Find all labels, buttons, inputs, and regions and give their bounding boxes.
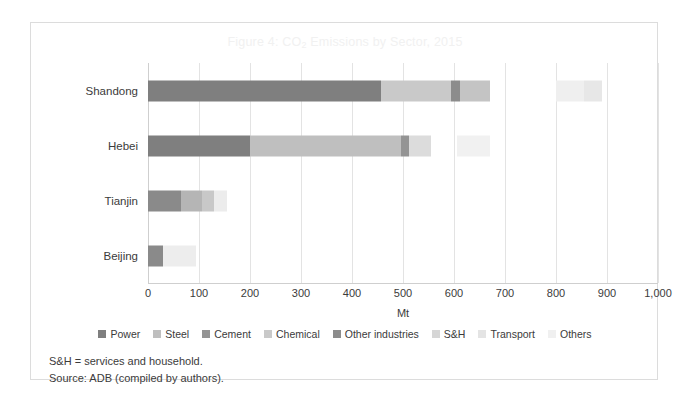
bar-row: Tianjin bbox=[148, 173, 658, 228]
legend-item-cement[interactable]: Cement bbox=[202, 328, 251, 340]
category-label-beijing: Beijing bbox=[103, 250, 138, 262]
bar-segment-transport bbox=[457, 135, 490, 156]
chart-legend: PowerSteelCementChemicalOther industries… bbox=[31, 328, 659, 340]
x-tick-label-100: 100 bbox=[190, 287, 208, 299]
bar-segment-power bbox=[148, 190, 181, 211]
stacked-bar-tianjin bbox=[148, 190, 658, 211]
stacked-bar-beijing bbox=[148, 245, 658, 266]
bar-segment-power bbox=[148, 80, 381, 101]
bar-segment-chemical bbox=[381, 80, 451, 101]
legend-item-other-industries[interactable]: Other industries bbox=[333, 328, 419, 340]
legend-label: Cement bbox=[214, 328, 251, 340]
plot-area: ShandongHebeiTianjinBeijing bbox=[148, 63, 658, 283]
bar-segment-power bbox=[148, 245, 163, 266]
x-tick-label-200: 200 bbox=[241, 287, 259, 299]
x-tick-label-700: 700 bbox=[496, 287, 514, 299]
legend-swatch-icon bbox=[202, 330, 210, 338]
legend-swatch-icon bbox=[432, 330, 440, 338]
note-source: Source: ADB (compiled by authors). bbox=[49, 370, 224, 387]
legend-label: Power bbox=[110, 328, 140, 340]
bar-segment-other-industries bbox=[451, 80, 460, 101]
figure-notes: S&H = services and household. Source: AD… bbox=[49, 353, 224, 387]
bar-segment-chemical bbox=[202, 190, 215, 211]
bar-segment-s-h bbox=[214, 190, 227, 211]
legend-item-power[interactable]: Power bbox=[98, 328, 140, 340]
bar-row: Hebei bbox=[148, 118, 658, 173]
legend-swatch-icon bbox=[548, 330, 556, 338]
legend-item-s-h[interactable]: S&H bbox=[432, 328, 466, 340]
bar-row: Shandong bbox=[148, 63, 658, 118]
x-tick-label-1000: 1,000 bbox=[644, 287, 672, 299]
category-label-shandong: Shandong bbox=[86, 85, 138, 97]
figure-frame: Figure 4: CO2 Emissions by Sector, 2015 … bbox=[30, 22, 658, 380]
legend-swatch-icon bbox=[478, 330, 486, 338]
legend-swatch-icon bbox=[153, 330, 161, 338]
chart-title-suffix: Emissions by Sector, 2015 bbox=[307, 35, 463, 49]
x-tick-label-800: 800 bbox=[547, 287, 565, 299]
gridline-1000 bbox=[658, 63, 659, 283]
bar-segment-transport bbox=[556, 80, 584, 101]
bar-segment-cement bbox=[401, 135, 409, 156]
legend-swatch-icon bbox=[333, 330, 341, 338]
bar-segment-steel bbox=[250, 135, 401, 156]
category-label-tianjin: Tianjin bbox=[105, 195, 138, 207]
bar-row: Beijing bbox=[148, 228, 658, 283]
legend-swatch-icon bbox=[98, 330, 106, 338]
legend-swatch-icon bbox=[264, 330, 272, 338]
bar-segment-others bbox=[584, 80, 602, 101]
x-axis-title: Mt bbox=[148, 307, 658, 319]
legend-label: Other industries bbox=[345, 328, 419, 340]
bar-segment-steel bbox=[181, 190, 201, 211]
x-tick-label-400: 400 bbox=[343, 287, 361, 299]
x-tick-label-0: 0 bbox=[145, 287, 151, 299]
category-label-hebei: Hebei bbox=[108, 140, 138, 152]
x-axis-line bbox=[148, 283, 658, 284]
legend-label: S&H bbox=[444, 328, 466, 340]
bar-segment-s-h bbox=[163, 245, 196, 266]
stacked-bar-shandong bbox=[148, 80, 658, 101]
stacked-bar-hebei bbox=[148, 135, 658, 156]
bar-segment-s-h bbox=[460, 80, 490, 101]
legend-label: Steel bbox=[165, 328, 189, 340]
bar-segment-power bbox=[148, 135, 250, 156]
chart-title-prefix: Figure 4: CO bbox=[227, 35, 301, 49]
legend-label: Others bbox=[560, 328, 592, 340]
legend-item-steel[interactable]: Steel bbox=[153, 328, 189, 340]
chart-title: Figure 4: CO2 Emissions by Sector, 2015 bbox=[31, 35, 659, 50]
x-tick-label-300: 300 bbox=[292, 287, 310, 299]
legend-item-others[interactable]: Others bbox=[548, 328, 592, 340]
x-tick-label-900: 900 bbox=[598, 287, 616, 299]
x-tick-label-600: 600 bbox=[445, 287, 463, 299]
note-abbreviation: S&H = services and household. bbox=[49, 353, 224, 370]
x-tick-label-500: 500 bbox=[394, 287, 412, 299]
legend-item-transport[interactable]: Transport bbox=[478, 328, 535, 340]
legend-label: Transport bbox=[490, 328, 535, 340]
legend-label: Chemical bbox=[276, 328, 320, 340]
legend-item-chemical[interactable]: Chemical bbox=[264, 328, 320, 340]
bar-segment-s-h bbox=[409, 135, 431, 156]
